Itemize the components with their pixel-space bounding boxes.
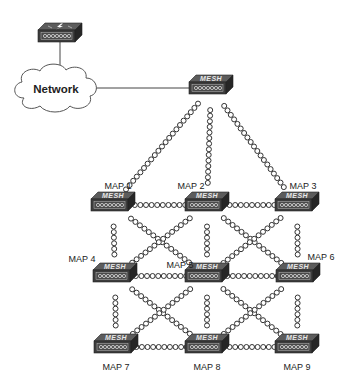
mesh-badge: MESH [104,263,127,270]
wireless-controller-icon [38,23,82,42]
mesh-badge: MESH [287,263,310,270]
root-access-point-icon: MESH [189,75,233,95]
mesh-access-point-map6: MESH [276,263,320,283]
label-map8: MAP 8 [194,362,221,372]
wireless-link-root_ap-map3 [222,103,287,189]
wireless-link-map7-map8 [134,345,189,350]
label-map4: MAP 4 [69,254,96,264]
wireless-link-map5-map6 [225,274,280,279]
label-map2: MAP 2 [178,181,205,191]
mesh-badge: MESH [105,334,128,341]
wireless-link-map8-map9 [227,345,277,350]
wireless-link-map3-map6 [295,224,300,257]
mesh-badge: MESH [196,263,219,270]
wireless-link-map4-map7 [113,295,118,328]
label-map1: MAP 1 [105,181,132,191]
label-map9: MAP 9 [284,362,311,372]
wireless-links [111,101,300,349]
mesh-access-point-map4: MESH [93,263,137,283]
wireless-link-map6-map9 [295,295,300,328]
label-map5: MAP 5 [167,260,194,270]
mesh-access-point-map7: MESH [94,334,138,354]
wireless-link-map1-map4 [111,224,117,257]
mesh-badge: MESH [196,334,219,341]
mesh-badge: MESH [196,192,219,199]
label-map3: MAP 3 [290,181,317,191]
mesh-network-diagram: Network MESHMESHMESHMESHMESHMESHMESHMESH… [0,0,353,380]
wireless-link-map2-map5 [205,224,210,257]
mesh-badge: MESH [286,192,309,199]
wireless-link-map2-map3 [227,203,277,208]
wireless-link-map5-map8 [205,295,210,328]
mesh-access-point-map9: MESH [275,334,319,354]
mesh-access-point-map1: MESH [91,192,135,212]
mesh-badge: MESH [286,334,309,341]
wireless-link-map4-map5 [133,274,188,279]
network-cloud: Network [15,64,97,112]
wireless-link-map1-map2 [132,203,187,208]
wireless-link-root_ap-map1 [124,101,201,192]
label-map7: MAP 7 [103,362,130,372]
mesh-badge: MESH [200,75,223,82]
network-label: Network [33,83,79,95]
mesh-access-point-map8: MESH [185,334,229,354]
mesh-access-point-map2: MESH [185,192,229,212]
wireless-link-root_ap-map2 [205,108,212,186]
label-map6: MAP 6 [308,252,335,262]
mesh-badge: MESH [102,192,125,199]
mesh-access-point-map3: MESH [275,192,319,212]
